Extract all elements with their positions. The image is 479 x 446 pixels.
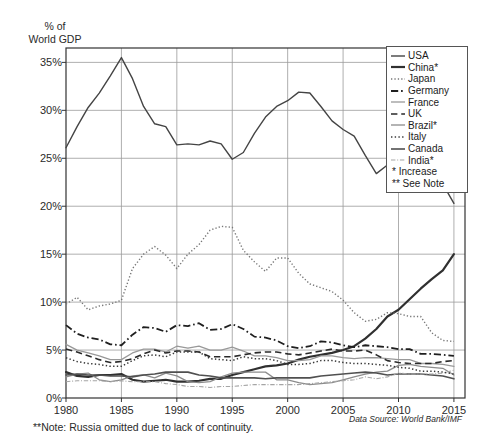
- legend-note-increase: * Increase: [391, 166, 464, 178]
- x-tick-1990: 1990: [165, 404, 189, 416]
- legend-line-swatch-icon: [391, 155, 405, 165]
- series-line-germany: [66, 323, 454, 356]
- legend-item-china[interactable]: China*: [391, 62, 464, 74]
- legend-item-japan[interactable]: Japan: [391, 73, 464, 85]
- legend-label: Japan: [408, 73, 435, 84]
- gdp-share-chart: % of World GDP 0%5%10%15%20%25%30%35% 19…: [0, 0, 479, 446]
- x-tick-2000: 2000: [275, 404, 299, 416]
- legend-line-swatch-icon: [391, 120, 405, 130]
- legend-label: Brazil*: [408, 120, 437, 131]
- legend-line-swatch-icon: [391, 144, 405, 154]
- legend-note-see-note: ** See Note: [391, 178, 464, 190]
- x-tick-1980: 1980: [54, 404, 78, 416]
- legend-line-swatch-icon: [391, 74, 405, 84]
- x-tick-1985: 1985: [109, 404, 133, 416]
- legend-label: USA: [408, 50, 429, 61]
- legend-item-brazil[interactable]: Brazil*: [391, 120, 464, 132]
- legend-item-italy[interactable]: Italy: [391, 131, 464, 143]
- legend-item-usa[interactable]: USA: [391, 50, 464, 62]
- legend-label: Germany: [408, 85, 449, 96]
- legend-line-swatch-icon: [391, 132, 405, 142]
- legend-label: Canada: [408, 143, 443, 154]
- legend-item-india[interactable]: India*: [391, 154, 464, 166]
- chart-footnote: **Note: Russia omitted due to lack of co…: [33, 421, 253, 433]
- legend-label: Italy: [408, 131, 426, 142]
- legend-label: UK: [408, 108, 422, 119]
- series-line-canada: [66, 372, 454, 379]
- data-source-label: Data Source: World Bank/IMF: [349, 414, 462, 424]
- legend-line-swatch-icon: [391, 51, 405, 61]
- legend-item-canada[interactable]: Canada: [391, 143, 464, 155]
- legend-line-swatch-icon: [391, 97, 405, 107]
- legend-item-germany[interactable]: Germany: [391, 85, 464, 97]
- legend-item-uk[interactable]: UK: [391, 108, 464, 120]
- legend-item-france[interactable]: France: [391, 96, 464, 108]
- legend-line-swatch-icon: [391, 109, 405, 119]
- legend-line-swatch-icon: [391, 62, 405, 72]
- legend-label: France: [408, 97, 439, 108]
- legend-label: India*: [408, 155, 434, 166]
- x-tick-1995: 1995: [220, 404, 244, 416]
- legend-label: China*: [408, 62, 438, 73]
- series-line-france: [66, 344, 454, 366]
- series-line-japan: [66, 226, 454, 341]
- legend-line-swatch-icon: [391, 86, 405, 96]
- chart-legend[interactable]: USAChina*JapanGermanyFranceUKBrazil*Ital…: [386, 46, 468, 193]
